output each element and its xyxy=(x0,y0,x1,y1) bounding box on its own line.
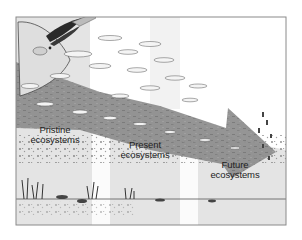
panel-background xyxy=(16,14,286,225)
label-line: ecosystems xyxy=(30,135,80,145)
label-line: ecosystems xyxy=(118,150,172,160)
label-pristine-ecosystems: Pristine ecosystems xyxy=(30,125,80,145)
label-line: ecosystems xyxy=(210,170,260,180)
diagram-canvas xyxy=(0,0,302,240)
label-future-ecosystems: Future ecosystems xyxy=(210,160,260,180)
ecosystem-decline-diagram: Pristine ecosystems Present ecosystems F… xyxy=(0,0,302,240)
label-present-ecosystems: Present ecosystems xyxy=(118,140,172,160)
